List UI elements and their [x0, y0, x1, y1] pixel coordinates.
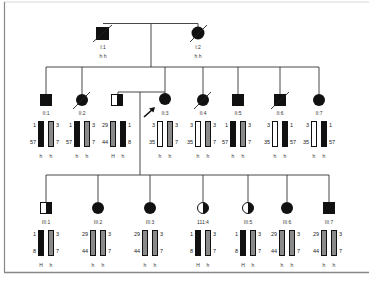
- haplotype-phase-label: h: [89, 262, 97, 268]
- individual-label: II:2: [67, 110, 97, 116]
- marker-allele-label: 1: [214, 122, 228, 128]
- affected-female-symbol: [192, 27, 205, 40]
- individual-label: III:3: [135, 219, 165, 225]
- haplotype-bar-black: [321, 121, 327, 147]
- marker-allele-label: 1: [22, 231, 36, 237]
- haplotype-bar-grey: [205, 230, 211, 256]
- marker-allele-label: 8: [128, 139, 142, 145]
- individual-label: II:5: [223, 110, 253, 116]
- haplotype-bar-white: [311, 121, 317, 147]
- haplotype-bar-grey: [90, 230, 96, 256]
- marker-allele-label: 35: [179, 139, 193, 145]
- haplotype-bar-grey: [84, 121, 90, 147]
- marker-allele-label: 7: [160, 248, 174, 254]
- haplotype-phase-label: h: [204, 153, 212, 159]
- affected-male-symbol: [323, 202, 335, 214]
- haplotype-phase-label: h: [288, 262, 296, 268]
- individual-II-6: [271, 92, 289, 109]
- affected-female-symbol: [313, 94, 325, 106]
- proband-affected-female-symbol: [159, 93, 171, 105]
- haplotype-bar-grey: [48, 121, 54, 147]
- haplotype-bar-white: [157, 121, 163, 147]
- affected-female-symbol: [92, 202, 104, 214]
- marker-allele-label: 57: [22, 139, 36, 145]
- marker-allele-label: 7: [56, 248, 70, 254]
- haplotype-bar-grey: [250, 230, 256, 256]
- marker-allele-label: 44: [126, 248, 140, 254]
- marker-allele-label: 1: [22, 122, 36, 128]
- haplotype-phase-label: h: [271, 153, 279, 159]
- haplotype-phase-label: h: [166, 153, 174, 159]
- marker-allele-label: 57: [214, 139, 228, 145]
- haplotype-phase-label: h: [47, 153, 55, 159]
- affected-female-symbol: [144, 202, 156, 214]
- individual-label: II:7: [304, 110, 334, 116]
- haplotype-bar-grey: [167, 121, 173, 147]
- individual-I-2: [190, 25, 207, 42]
- marker-allele-label: 29: [126, 231, 140, 237]
- haplotype-bar-grey: [279, 230, 285, 256]
- affected-male-symbol: [40, 94, 52, 106]
- marker-allele-label: 44: [74, 248, 88, 254]
- individual-label: II:6: [265, 110, 295, 116]
- individual-label: II:3: [150, 110, 180, 116]
- individual-label: II:4: [188, 110, 218, 116]
- haplotype-label: h h: [88, 53, 118, 59]
- marker-allele-label: 1: [224, 231, 238, 237]
- haplotype-phase-label: h: [47, 262, 55, 268]
- haplotype-phase-label: H: [194, 262, 202, 268]
- marker-allele-label: 35: [256, 139, 270, 145]
- haplotype-bar-grey: [142, 230, 148, 256]
- haplotype-phase-label: h: [320, 153, 328, 159]
- marker-allele-label: 1: [128, 122, 142, 128]
- haplotype-bar-grey: [48, 230, 54, 256]
- individual-label: III:7: [314, 219, 344, 225]
- haplotype-phase-label: h: [151, 262, 159, 268]
- haplotype-phase-label: h: [83, 153, 91, 159]
- haplotype-phase-label: H: [109, 153, 117, 159]
- haplotype-phase-label: h: [239, 153, 247, 159]
- haplotype-bar-grey: [100, 230, 106, 256]
- haplotype-bar-white: [195, 121, 201, 147]
- haplotype-bar-grey: [110, 121, 116, 147]
- marker-allele-label: 35: [141, 139, 155, 145]
- marker-allele-label: 44: [305, 248, 319, 254]
- haplotype-phase-label: h: [320, 262, 328, 268]
- marker-allele-label: 3: [179, 122, 193, 128]
- marker-allele-label: 29: [74, 231, 88, 237]
- marker-allele-label: 1: [58, 122, 72, 128]
- haplotype-bar-black: [38, 121, 44, 147]
- haplotype-bar-grey: [289, 230, 295, 256]
- haplotype-bar-black: [230, 121, 236, 147]
- marker-allele-label: 1: [329, 122, 343, 128]
- haplotype-phase-label: h: [278, 262, 286, 268]
- marker-allele-label: 44: [263, 248, 277, 254]
- marker-allele-label: 3: [339, 231, 353, 237]
- haplotype-bar-black: [74, 121, 80, 147]
- marker-allele-label: 44: [94, 139, 108, 145]
- haplotype-bar-grey: [205, 121, 211, 147]
- haplotype-label: h h: [183, 53, 213, 59]
- haplotype-bar-grey: [321, 230, 327, 256]
- individual-III-1: [41, 203, 52, 214]
- individual-label: III:5: [233, 219, 263, 225]
- haplotype-phase-label: h: [194, 153, 202, 159]
- marker-allele-label: 7: [108, 248, 122, 254]
- haplotype-bar-grey: [152, 230, 158, 256]
- marker-allele-label: 35: [295, 139, 309, 145]
- marker-allele-label: 8: [224, 248, 238, 254]
- haplotype-phase-label: h: [281, 153, 289, 159]
- haplotype-phase-label: h: [204, 262, 212, 268]
- marker-allele-label: 3: [56, 231, 70, 237]
- haplotype-phase-label: h: [330, 262, 338, 268]
- individual-label: I:1: [88, 44, 118, 50]
- affected-female-symbol: [281, 202, 293, 214]
- haplotype-phase-label: H: [37, 262, 45, 268]
- haplotype-bar-black: [240, 230, 246, 256]
- haplotype-bar-black: [282, 121, 288, 147]
- marker-allele-label: 29: [263, 231, 277, 237]
- haplotype-bar-black: [120, 121, 126, 147]
- individual-III-4: [198, 203, 209, 214]
- marker-allele-label: 8: [22, 248, 36, 254]
- marker-allele-label: 7: [339, 248, 353, 254]
